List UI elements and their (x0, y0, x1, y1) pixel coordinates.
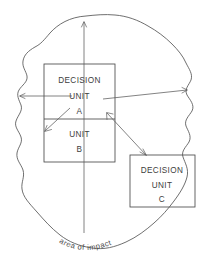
decision-unit-a-line2: UNIT (69, 92, 90, 101)
caption-textpath: area of impact (58, 236, 113, 252)
decision-unit-a-line1: DECISION (58, 76, 100, 85)
connector-a-to-c-line (107, 113, 146, 155)
decision-unit-c-line3: C (159, 195, 165, 204)
connector-right-line (103, 90, 187, 99)
unit-b-line2: B (77, 145, 83, 154)
unit-b-line1: UNIT (69, 130, 90, 139)
connector-diagonal-b-line (45, 108, 70, 131)
decision-unit-c-line2: UNIT (152, 181, 173, 190)
decision-unit-a-line3: A (77, 107, 83, 116)
figure-canvas: DECISION UNIT A UNIT B DECISION UNIT C a… (0, 0, 210, 270)
area-of-impact-outline (16, 15, 193, 249)
figure-root: DECISION UNIT A UNIT B DECISION UNIT C a… (0, 0, 210, 270)
decision-unit-c-line1: DECISION (141, 166, 183, 175)
area-of-impact-caption: area of impact (58, 236, 113, 252)
